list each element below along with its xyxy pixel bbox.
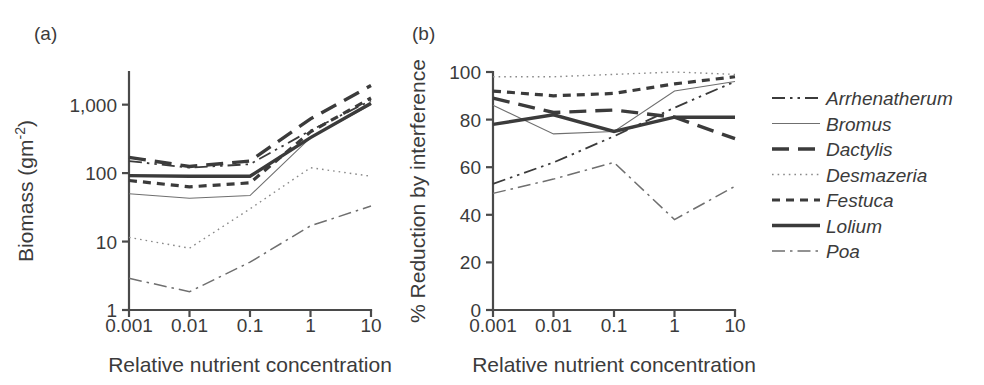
figure-container: (a)1101001,0000.0010.010.1110Relative nu… — [0, 0, 984, 385]
panel-a: (a)1101001,0000.0010.010.1110Relative nu… — [12, 23, 392, 376]
legend-item-bromus[interactable]: Bromus — [772, 114, 892, 135]
series-line-desmazeria-b — [493, 72, 735, 77]
xtick-label-b: 0.001 — [469, 315, 517, 336]
legend-label-festuca: Festuca — [826, 190, 894, 211]
series-line-lolium-b — [493, 115, 735, 132]
legend-label-arrhenatherum: Arrhenatherum — [825, 88, 953, 109]
xtick-label-a: 0.1 — [237, 315, 263, 336]
xtick-label-b: 10 — [724, 315, 745, 336]
xaxis-title-a: Relative nutrient concentration — [108, 353, 392, 376]
legend-item-poa[interactable]: Poa — [772, 241, 860, 262]
ytick-label-b: 80 — [460, 110, 481, 131]
xtick-label-b: 0.01 — [535, 315, 572, 336]
yaxis-title-a: Biomass (gm-2) — [12, 120, 37, 262]
ytick-label-b: 40 — [460, 205, 481, 226]
panel-label-a: (a) — [34, 23, 57, 44]
xtick-label-a: 10 — [360, 315, 381, 336]
series-line-dactylis-a — [129, 86, 371, 167]
legend-item-dactylis[interactable]: Dactylis — [772, 139, 893, 160]
ytick-label-a: 1,000 — [69, 95, 117, 116]
ytick-label-a: 10 — [96, 232, 117, 253]
panel-label-b: (b) — [412, 23, 435, 44]
legend-item-festuca[interactable]: Festuca — [772, 190, 894, 211]
ytick-label-b: 100 — [449, 62, 481, 83]
xtick-label-a: 1 — [305, 315, 316, 336]
ytick-label-b: 60 — [460, 157, 481, 178]
xtick-label-a: 0.01 — [171, 315, 208, 336]
series-line-desmazeria-a — [129, 168, 371, 249]
series-line-poa-a — [129, 206, 371, 292]
figure-svg: (a)1101001,0000.0010.010.1110Relative nu… — [0, 0, 984, 385]
xtick-label-a: 0.001 — [105, 315, 153, 336]
xaxis-title-b: Relative nutrient concentration — [472, 353, 756, 376]
legend-item-lolium[interactable]: Lolium — [772, 216, 882, 237]
legend-label-desmazeria: Desmazeria — [826, 165, 927, 186]
series-line-festuca-b — [493, 77, 735, 96]
legend-item-arrhenatherum[interactable]: Arrhenatherum — [772, 88, 953, 109]
legend-label-bromus: Bromus — [826, 114, 892, 135]
series-line-arrhenatherum-a — [129, 101, 371, 168]
legend-item-desmazeria[interactable]: Desmazeria — [772, 165, 927, 186]
legend: ArrhenatherumBromusDactylisDesmazeriaFes… — [772, 88, 953, 262]
legend-label-lolium: Lolium — [826, 216, 882, 237]
yaxis-title-b: % Reduction by interference — [406, 59, 429, 323]
legend-label-dactylis: Dactylis — [826, 139, 893, 160]
legend-label-poa: Poa — [826, 241, 860, 262]
ytick-label-a: 100 — [85, 163, 117, 184]
xtick-label-b: 1 — [669, 315, 680, 336]
axis-lines-a — [129, 72, 371, 310]
ytick-label-b: 20 — [460, 252, 481, 273]
series-line-festuca-a — [129, 98, 371, 187]
panel-b: (b)0204060801000.0010.010.1110Relative n… — [406, 23, 756, 376]
xtick-label-b: 0.1 — [601, 315, 627, 336]
